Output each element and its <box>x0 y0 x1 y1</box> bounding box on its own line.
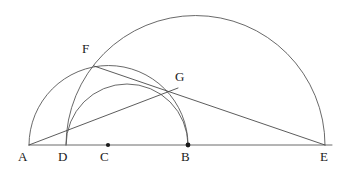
arc-semicircle-AB <box>29 66 188 145</box>
point-dot-B <box>186 143 191 148</box>
line-segment-FE <box>94 66 325 145</box>
point-dot-C <box>106 143 110 147</box>
vertex-label-B: B <box>181 150 190 163</box>
vertex-label-G: G <box>175 70 184 83</box>
arc-large-semicircle-DE <box>66 16 325 145</box>
arc-semicircle-DB <box>66 84 188 145</box>
vertex-label-A: A <box>18 150 27 163</box>
vertex-label-F: F <box>82 42 89 55</box>
geometry-diagram: A D C B E F G <box>0 0 350 174</box>
line-segment-AG <box>29 88 178 145</box>
vertex-label-E: E <box>320 150 328 163</box>
diagram-canvas <box>0 0 350 174</box>
vertex-label-D: D <box>58 150 67 163</box>
vertex-label-C: C <box>100 150 109 163</box>
